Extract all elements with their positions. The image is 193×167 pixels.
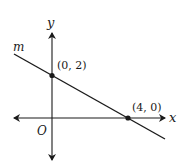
point-y-intercept <box>49 73 54 78</box>
x-axis-label: x <box>169 110 177 125</box>
point-x-intercept <box>125 115 130 120</box>
coordinate-diagram: y x O m (0, 2) (4, 0) <box>0 0 193 167</box>
point-label-0-2: (0, 2) <box>57 59 87 72</box>
y-axis-label: y <box>46 15 55 30</box>
origin-label: O <box>37 124 47 138</box>
line-label-m: m <box>13 40 24 54</box>
point-label-4-0: (4, 0) <box>132 101 162 114</box>
